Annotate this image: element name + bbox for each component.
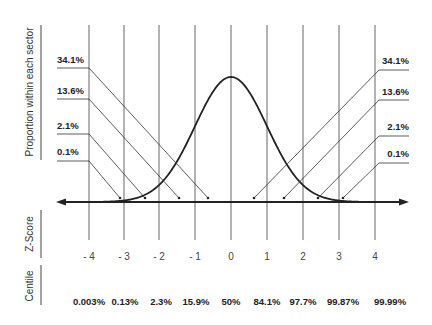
z-score-labels: - 4 - 3 - 2 - 1 0 1 2 3 4	[83, 251, 378, 262]
right-arrow-icon	[399, 199, 409, 206]
z-label: 1	[264, 251, 270, 262]
z-label: 3	[336, 251, 342, 262]
left-arrow-icon	[56, 199, 66, 206]
centile-value: 0.003%	[73, 296, 106, 307]
diagram-canvas: Proportion within each sector Z-Score Ce…	[0, 0, 432, 325]
left-pct-2: 2.1%	[57, 120, 79, 131]
proportion-label: Proportion within each sector	[24, 27, 35, 157]
centile-value: 99.87%	[327, 296, 360, 307]
z-label: 2	[300, 251, 306, 262]
centile-value: 2.3%	[150, 296, 172, 307]
centile-labels: 0.003% 0.13% 2.3% 15.9% 50% 84.1% 97.7% …	[73, 296, 407, 307]
left-pct-34: 34.1%	[57, 54, 84, 65]
centile-value: 50%	[221, 296, 241, 307]
centile-value: 84.1%	[254, 296, 281, 307]
right-pct-0: 0.1%	[387, 148, 409, 159]
z-label: 0	[228, 251, 234, 262]
centile-value: 15.9%	[183, 296, 210, 307]
z-label: - 4	[83, 251, 95, 262]
left-pct-13: 13.6%	[57, 85, 84, 96]
right-pct-13: 13.6%	[382, 86, 409, 97]
z-label: - 2	[153, 251, 165, 262]
z-label: - 3	[118, 251, 130, 262]
z-label: - 1	[189, 251, 201, 262]
centile-label: Centile	[24, 270, 35, 302]
right-pct-2: 2.1%	[387, 121, 409, 132]
centile-value: 0.13%	[112, 296, 139, 307]
normal-distribution-diagram: Proportion within each sector Z-Score Ce…	[0, 0, 432, 325]
right-pct-34: 34.1%	[382, 55, 409, 66]
centile-value: 99.99%	[374, 296, 407, 307]
z-label: 4	[372, 251, 378, 262]
centile-value: 97.7%	[290, 296, 317, 307]
left-pct-0: 0.1%	[57, 146, 79, 157]
zscore-label: Z-Score	[24, 216, 35, 252]
z-gridlines	[89, 25, 375, 240]
